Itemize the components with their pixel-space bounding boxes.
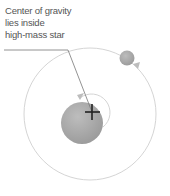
outer-orbit-arrow-icon <box>133 62 140 69</box>
high-mass-star <box>61 102 103 144</box>
low-mass-star <box>120 51 135 66</box>
orbit-diagram <box>0 0 170 196</box>
